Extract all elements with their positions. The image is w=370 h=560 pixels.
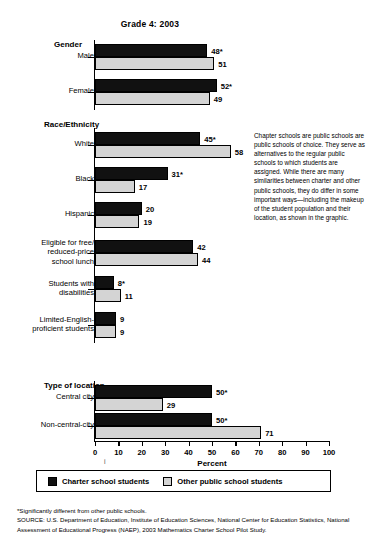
category-label-male: Male bbox=[8, 51, 94, 60]
bar-other-central-city bbox=[95, 398, 163, 411]
category-tick-female bbox=[88, 92, 94, 93]
group-header-gender: Gender bbox=[54, 40, 82, 49]
bar-value-charter-central-city: 50* bbox=[216, 388, 227, 397]
bar-chart-plot-area: GenderMale48*51Female52*49Race/Ethnicity… bbox=[0, 0, 370, 470]
bar-value-other-female: 49 bbox=[214, 95, 222, 104]
bar-charter-non-central-city bbox=[95, 413, 212, 426]
bar-value-charter-limited-english-proficient-students: 9 bbox=[120, 315, 124, 324]
x-tick-label-60: 60 bbox=[225, 448, 245, 457]
bar-charter-black bbox=[95, 167, 168, 180]
bar-charter-students-with-disabilities bbox=[95, 276, 114, 289]
category-tick-limited-english-proficient-students bbox=[88, 325, 94, 326]
side-note-text: Chapter schools are public schools are p… bbox=[254, 131, 366, 222]
axis-line-race bbox=[94, 128, 95, 343]
legend-swatch-other-icon bbox=[163, 477, 172, 486]
x-tick-10 bbox=[118, 441, 119, 446]
footnote-significance: *Significantly different from other publ… bbox=[17, 506, 362, 515]
x-tick-40 bbox=[189, 441, 190, 446]
bar-value-other-central-city: 29 bbox=[167, 401, 175, 410]
bar-other-female bbox=[95, 92, 210, 105]
x-tick-70 bbox=[259, 441, 260, 446]
bar-value-charter-eligible-for-free-reduced-price-school-lunch: 42 bbox=[197, 243, 205, 252]
bar-value-charter-female: 52* bbox=[221, 82, 232, 91]
category-label-central-city: Central city bbox=[8, 392, 94, 401]
bar-other-eligible-for-free-reduced-price-school-lunch bbox=[95, 253, 198, 266]
bar-charter-limited-english-proficient-students bbox=[95, 312, 116, 325]
bar-value-charter-hispanic: 20 bbox=[146, 205, 154, 214]
category-label-hispanic: Hispanic bbox=[8, 209, 94, 218]
x-tick-80 bbox=[282, 441, 283, 446]
category-tick-non-central-city bbox=[88, 426, 94, 427]
category-label-eligible-for-free-reduced-price-school-lunch: Eligible for free/ reduced-price school … bbox=[8, 238, 94, 266]
category-tick-male bbox=[88, 57, 94, 58]
category-tick-central-city bbox=[88, 398, 94, 399]
bar-other-students-with-disabilities bbox=[95, 289, 121, 302]
category-tick-black bbox=[88, 180, 94, 181]
bar-value-charter-male: 48* bbox=[211, 47, 222, 56]
x-tick-label-20: 20 bbox=[132, 448, 152, 457]
x-tick-label-100: 100 bbox=[319, 448, 339, 457]
x-axis-title: Percent bbox=[94, 459, 330, 468]
bar-other-non-central-city bbox=[95, 426, 261, 439]
bar-charter-hispanic bbox=[95, 202, 142, 215]
footnote-source: SOURCE: U.S. Department of Education, In… bbox=[17, 515, 362, 534]
category-label-students-with-disabilities: Students with disabilities bbox=[8, 279, 94, 297]
bar-value-charter-black: 31* bbox=[172, 170, 183, 179]
bar-other-male bbox=[95, 57, 214, 70]
group-header-race-ethnicity: Race/Ethnicity bbox=[44, 120, 99, 129]
x-tick-label-80: 80 bbox=[272, 448, 292, 457]
x-tick-0 bbox=[95, 441, 96, 446]
bar-value-other-black: 17 bbox=[139, 183, 147, 192]
category-tick-white bbox=[88, 145, 94, 146]
x-tick-label-30: 30 bbox=[155, 448, 175, 457]
legend-item-charter: Charter school students bbox=[48, 477, 149, 486]
bar-charter-eligible-for-free-reduced-price-school-lunch bbox=[95, 240, 193, 253]
legend-swatch-charter-icon bbox=[48, 477, 57, 486]
x-tick-label-40: 40 bbox=[179, 448, 199, 457]
bar-other-black bbox=[95, 180, 135, 193]
bar-value-other-eligible-for-free-reduced-price-school-lunch: 44 bbox=[202, 256, 210, 265]
category-label-limited-english-proficient-students: Limited-English- proficient students bbox=[8, 315, 94, 333]
bar-value-other-white: 58 bbox=[235, 148, 243, 157]
category-label-white: White bbox=[8, 139, 94, 148]
legend-label-charter: Charter school students bbox=[62, 477, 149, 486]
legend-label-other: Other public school students bbox=[177, 477, 282, 486]
x-tick-label-50: 50 bbox=[202, 448, 222, 457]
x-tick-label-10: 10 bbox=[108, 448, 128, 457]
x-tick-50 bbox=[212, 441, 213, 446]
bar-value-charter-white: 45* bbox=[204, 135, 215, 144]
bar-charter-central-city bbox=[95, 385, 212, 398]
bar-charter-male bbox=[95, 44, 207, 57]
x-tick-90 bbox=[306, 441, 307, 446]
bar-value-other-limited-english-proficient-students: 9 bbox=[120, 328, 124, 337]
axis-artifact-mark: i bbox=[104, 458, 106, 465]
category-tick-eligible-for-free-reduced-price-school-lunch bbox=[88, 253, 94, 254]
x-tick-100 bbox=[329, 441, 330, 446]
bar-value-other-hispanic: 19 bbox=[143, 218, 151, 227]
footnotes: *Significantly different from other publ… bbox=[17, 506, 362, 534]
legend-item-other: Other public school students bbox=[163, 477, 282, 486]
category-tick-hispanic bbox=[88, 215, 94, 216]
bar-charter-female bbox=[95, 79, 217, 92]
x-tick-label-0: 0 bbox=[85, 448, 105, 457]
bar-value-other-non-central-city: 71 bbox=[265, 429, 273, 438]
bar-other-hispanic bbox=[95, 215, 139, 228]
bar-value-charter-non-central-city: 50* bbox=[216, 416, 227, 425]
bar-value-other-male: 51 bbox=[218, 60, 226, 69]
category-label-non-central-city: Non-central-city bbox=[8, 420, 94, 429]
category-tick-students-with-disabilities bbox=[88, 289, 94, 290]
bar-charter-white bbox=[95, 132, 200, 145]
x-tick-30 bbox=[165, 441, 166, 446]
chart-legend: Charter school students Other public sch… bbox=[36, 470, 331, 492]
bar-value-charter-students-with-disabilities: 8* bbox=[118, 279, 125, 288]
x-tick-60 bbox=[235, 441, 236, 446]
category-label-female: Female bbox=[8, 86, 94, 95]
x-tick-label-70: 70 bbox=[249, 448, 269, 457]
x-tick-20 bbox=[142, 441, 143, 446]
x-tick-label-90: 90 bbox=[296, 448, 316, 457]
category-label-black: Black bbox=[8, 174, 94, 183]
bar-other-white bbox=[95, 145, 231, 158]
bar-other-limited-english-proficient-students bbox=[95, 325, 116, 338]
bar-value-other-students-with-disabilities: 11 bbox=[125, 292, 133, 301]
